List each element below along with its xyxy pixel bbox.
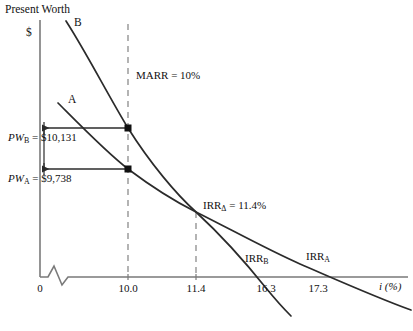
pw-a-annotation: PWA = $9,738 bbox=[8, 173, 72, 186]
pw-a-symbol: PW bbox=[8, 172, 24, 184]
pw-b-annotation: PWB = $10,131 bbox=[8, 132, 77, 145]
x-axis-label: i (%) bbox=[379, 281, 401, 292]
pw-b-symbol: PW bbox=[8, 131, 24, 143]
irr-a-annotation: IRRA bbox=[306, 251, 330, 264]
irr-delta-symbol: IRR bbox=[203, 199, 221, 211]
irr-delta-annotation: IRRΔ = 11.4% bbox=[203, 200, 266, 213]
x-tick-label-16-3: 16.3 bbox=[256, 283, 275, 294]
marr-annotation: MARR = 10% bbox=[136, 70, 200, 81]
page-title: Present Worth bbox=[5, 4, 70, 16]
irr-a-subscript: A bbox=[324, 255, 330, 264]
irr-delta-value: = 11.4% bbox=[226, 199, 266, 211]
irr-b-annotation: IRRB bbox=[245, 253, 269, 266]
irr-b-subscript: B bbox=[263, 257, 268, 266]
pw-a-value: = $9,738 bbox=[30, 172, 72, 184]
x-tick-label-10: 10.0 bbox=[118, 283, 137, 294]
marker-pw-a bbox=[125, 166, 132, 173]
irr-b-symbol: IRR bbox=[245, 252, 263, 264]
chart-plot-area bbox=[0, 0, 413, 331]
curve-b-label: B bbox=[74, 17, 82, 29]
x-tick-label-0: 0 bbox=[37, 283, 43, 294]
x-axis-line-with-break bbox=[40, 266, 408, 285]
irr-a-symbol: IRR bbox=[306, 250, 324, 262]
pw-b-value: = $10,131 bbox=[29, 131, 76, 143]
y-axis-label: $ bbox=[26, 27, 32, 39]
x-tick-label-11-4: 11.4 bbox=[187, 283, 206, 294]
present-worth-chart-figure: Present Worth $ B A MARR = 10% PWB = $10… bbox=[0, 0, 413, 331]
x-tick-label-17-3: 17.3 bbox=[308, 283, 327, 294]
marker-pw-b bbox=[125, 125, 132, 132]
curve-a-label: A bbox=[68, 94, 76, 106]
